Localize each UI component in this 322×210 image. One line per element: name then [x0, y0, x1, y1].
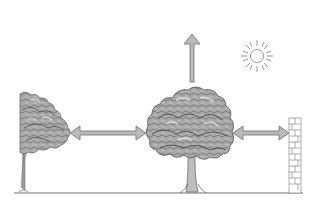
center-tree-illustration — [146, 87, 233, 193]
brick-wall-illustration — [289, 118, 301, 193]
double-arrow-left-gap-icon — [70, 126, 146, 140]
double-arrow-right-gap-icon — [233, 126, 289, 140]
tree-spacing-diagram — [0, 0, 322, 210]
arrow-up-icon — [184, 34, 200, 82]
left-tree-illustration — [19, 92, 70, 192]
sun-icon — [241, 40, 273, 72]
